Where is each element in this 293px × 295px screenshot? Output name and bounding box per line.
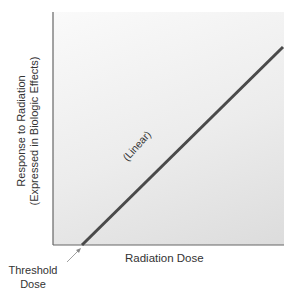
chart-svg bbox=[0, 0, 293, 295]
y-axis-label-line1: Response to Radiation bbox=[15, 36, 28, 226]
y-axis-label: Response to Radiation (Expressed in Biol… bbox=[15, 36, 41, 226]
y-axis-label-line2: (Expressed in Biologic Effects) bbox=[28, 36, 41, 226]
x-axis-label: Radiation Dose bbox=[125, 252, 204, 264]
threshold-label-line1: Threshold bbox=[8, 263, 58, 277]
linear-response-line bbox=[82, 47, 283, 245]
threshold-annotation: Threshold Dose bbox=[8, 263, 58, 291]
threshold-label-line2: Dose bbox=[8, 277, 58, 291]
